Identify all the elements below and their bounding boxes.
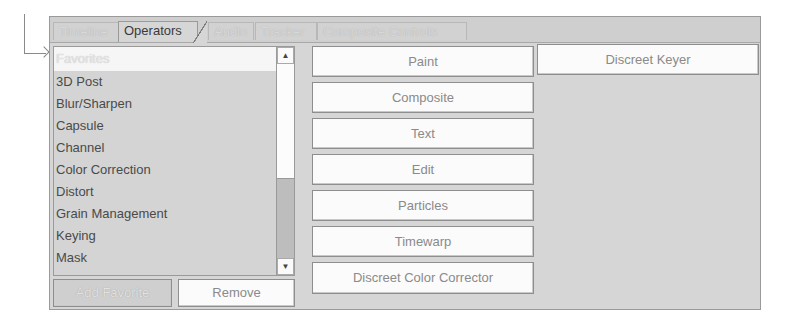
- list-item[interactable]: Distort: [54, 181, 276, 203]
- tab-timeline[interactable]: Timeline: [53, 22, 119, 40]
- tab-tracker[interactable]: Tracker: [255, 22, 317, 40]
- operator-button-composite[interactable]: Composite: [312, 82, 534, 113]
- list-item-favorites[interactable]: Favorites: [54, 47, 276, 71]
- scroll-up-button[interactable]: ▲: [277, 47, 294, 64]
- operator-button-text[interactable]: Text: [312, 118, 534, 149]
- operator-button-paint[interactable]: Paint: [312, 46, 534, 77]
- operator-button-edit[interactable]: Edit: [312, 154, 534, 185]
- operators-panel: Timeline Operators Audio Tracker Composi…: [49, 16, 761, 310]
- list-scrollbar[interactable]: ▲ ▼: [276, 46, 295, 276]
- list-item[interactable]: Mask: [54, 247, 276, 269]
- arrow-down-icon: ▼: [282, 262, 290, 271]
- tab-composite-controls[interactable]: Composite Controls: [317, 22, 467, 40]
- tab-operators[interactable]: Operators: [118, 21, 198, 42]
- list-item[interactable]: Color Correction: [54, 159, 276, 181]
- remove-button[interactable]: Remove: [178, 279, 295, 307]
- category-list[interactable]: Favorites 3D Post Blur/Sharpen Capsule C…: [53, 46, 277, 276]
- tab-audio[interactable]: Audio: [208, 22, 254, 40]
- annotation-line-vertical: [24, 14, 25, 54]
- arrow-up-icon: ▲: [282, 51, 290, 60]
- list-item[interactable]: Channel: [54, 137, 276, 159]
- list-item[interactable]: Capsule: [54, 115, 276, 137]
- list-item[interactable]: 3D Post: [54, 71, 276, 93]
- list-item[interactable]: Grain Management: [54, 203, 276, 225]
- tab-bar: Timeline Operators Audio Tracker Composi…: [50, 17, 760, 43]
- scroll-down-button[interactable]: ▼: [277, 258, 294, 275]
- arrow-right-icon: [38, 46, 49, 57]
- add-favorite-button[interactable]: Add Favorite: [53, 279, 172, 307]
- list-item[interactable]: Keying: [54, 225, 276, 247]
- operator-button-timewarp[interactable]: Timewarp: [312, 226, 534, 257]
- scroll-thumb[interactable]: [277, 64, 294, 179]
- list-item[interactable]: Blur/Sharpen: [54, 93, 276, 115]
- operator-button-particles[interactable]: Particles: [312, 190, 534, 221]
- operator-button-discreet-keyer[interactable]: Discreet Keyer: [537, 44, 759, 75]
- operator-button-discreet-color-corrector[interactable]: Discreet Color Corrector: [312, 262, 534, 294]
